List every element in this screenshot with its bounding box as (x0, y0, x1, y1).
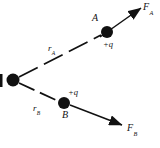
force-vector-fb (70, 105, 122, 125)
label-point-a: A (92, 13, 98, 23)
distance-b-subscript: B (37, 110, 40, 116)
left-edge-clipped-mark (0, 74, 3, 87)
label-distance-a: rA (48, 44, 55, 55)
distance-line-ra (19, 35, 101, 77)
label-charge-a: +q (103, 40, 113, 49)
distance-line-rb (19, 83, 58, 101)
label-force-a: FA (143, 2, 153, 14)
label-charge-b: +q (68, 88, 78, 97)
charge-a-dot (101, 26, 113, 38)
label-point-b: B (62, 110, 68, 120)
distance-a-subscript: A (52, 50, 55, 56)
source-charge-dot (7, 74, 20, 87)
label-force-b: FB (127, 123, 137, 135)
force-a-subscript: A (149, 9, 153, 16)
distance-a-symbol: r (48, 43, 52, 53)
force-b-subscript: B (133, 130, 137, 137)
force-diagram-figure: A +q FA rA +q B rB FB (0, 0, 160, 148)
label-distance-b: rB (33, 104, 40, 115)
distance-b-symbol: r (33, 103, 37, 113)
charge-b-dot (58, 97, 70, 109)
